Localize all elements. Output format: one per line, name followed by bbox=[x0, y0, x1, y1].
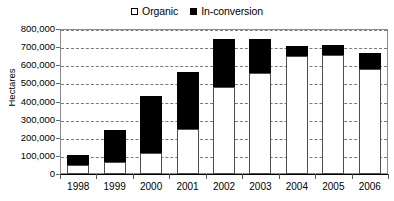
bar-segment-organic-2005 bbox=[322, 55, 344, 174]
bar-segment-organic-2006 bbox=[359, 69, 381, 174]
x-axis-tick-mark bbox=[242, 174, 243, 179]
bar-series-container bbox=[60, 29, 388, 174]
legend-label-in-conversion: In-conversion bbox=[201, 6, 263, 17]
bar-segment-in-conversion-2002 bbox=[213, 39, 235, 87]
x-axis-tick-label-2002: 2002 bbox=[213, 181, 235, 193]
x-axis-tick-mark bbox=[388, 174, 389, 179]
bar-segment-organic-2001 bbox=[177, 129, 199, 174]
bar-segment-organic-2004 bbox=[286, 56, 308, 174]
bar-group-1998 bbox=[67, 29, 89, 174]
organic-hectares-stacked-bar-chart: Organic In-conversion Hectares 0100,0002… bbox=[0, 0, 394, 201]
x-axis-tick-mark bbox=[96, 174, 97, 179]
bar-segment-in-conversion-2000 bbox=[140, 96, 162, 153]
x-axis-tick-label-1998: 1998 bbox=[67, 181, 89, 193]
x-axis-tick-label-2000: 2000 bbox=[140, 181, 162, 193]
bar-segment-in-conversion-2001 bbox=[177, 72, 199, 129]
x-axis-tick-label-2006: 2006 bbox=[359, 181, 381, 193]
bar-segment-in-conversion-2003 bbox=[249, 39, 271, 73]
bar-segment-organic-2000 bbox=[140, 153, 162, 174]
x-axis-tick-mark bbox=[279, 174, 280, 179]
x-axis-tick-label-2001: 2001 bbox=[176, 181, 198, 193]
legend-swatch-in-conversion-icon bbox=[190, 8, 197, 15]
bar-group-2003 bbox=[249, 29, 271, 174]
bar-segment-in-conversion-1998 bbox=[67, 155, 89, 165]
x-axis-tick-mark bbox=[60, 174, 61, 179]
legend-entry-organic: Organic bbox=[131, 6, 178, 17]
bar-group-2000 bbox=[140, 29, 162, 174]
x-axis-line bbox=[60, 174, 388, 175]
bar-segment-in-conversion-2005 bbox=[322, 45, 344, 55]
y-axis-tick-marks bbox=[0, 29, 60, 174]
bar-group-2001 bbox=[177, 29, 199, 174]
x-axis-tick-label-1999: 1999 bbox=[104, 181, 126, 193]
bar-segment-organic-2002 bbox=[213, 87, 235, 174]
bar-segment-organic-1998 bbox=[67, 165, 89, 174]
bar-segment-in-conversion-2004 bbox=[286, 46, 308, 56]
bar-segment-organic-1999 bbox=[104, 162, 126, 174]
bar-group-2002 bbox=[213, 29, 235, 174]
x-axis-tick-mark bbox=[352, 174, 353, 179]
x-axis-tick-mark bbox=[206, 174, 207, 179]
chart-legend: Organic In-conversion bbox=[0, 2, 394, 20]
bar-segment-in-conversion-2006 bbox=[359, 53, 381, 70]
bar-segment-in-conversion-1999 bbox=[104, 130, 126, 163]
x-axis-tick-label-2005: 2005 bbox=[322, 181, 344, 193]
legend-label-organic: Organic bbox=[142, 6, 178, 17]
bar-group-2006 bbox=[359, 29, 381, 174]
x-axis-tick-label-2003: 2003 bbox=[249, 181, 271, 193]
x-axis-tick-mark bbox=[133, 174, 134, 179]
x-axis-tick-label-2004: 2004 bbox=[286, 181, 308, 193]
bar-group-2004 bbox=[286, 29, 308, 174]
bar-segment-organic-2003 bbox=[249, 73, 271, 175]
x-axis-tick-mark bbox=[315, 174, 316, 179]
x-axis-tick-mark bbox=[169, 174, 170, 179]
bar-group-2005 bbox=[322, 29, 344, 174]
legend-entry-in-conversion: In-conversion bbox=[190, 6, 263, 17]
bar-group-1999 bbox=[104, 29, 126, 174]
legend-swatch-organic-icon bbox=[131, 8, 138, 15]
